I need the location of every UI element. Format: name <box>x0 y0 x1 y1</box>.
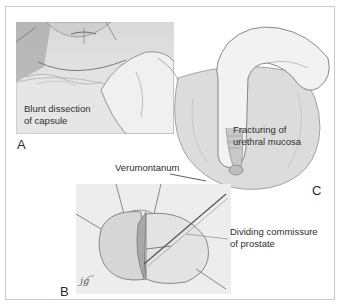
panel-a-letter: A <box>17 137 26 152</box>
surgical-drawing-c <box>158 18 333 198</box>
panel-a-caption-line1: Blunt dissection <box>24 103 91 114</box>
surgical-drawing-b <box>76 184 231 294</box>
panel-b-caption-line1: Dividing commissure <box>230 226 318 237</box>
panel-c-caption-line2: urethral mucosa <box>233 136 301 147</box>
panel-c-caption-line1: Fracturing of <box>233 124 286 135</box>
panel-b-letter: B <box>60 284 69 299</box>
panel-b-signature: jg <box>80 275 90 286</box>
verumontanum-pointer-line <box>170 172 210 184</box>
panel-a-caption-line2: of capsule <box>24 115 67 126</box>
panel-c-illustration <box>158 18 333 198</box>
panel-b-illustration <box>76 184 231 294</box>
panel-b-caption-line2: of prostate <box>230 238 275 249</box>
panel-c-letter: C <box>312 183 321 198</box>
